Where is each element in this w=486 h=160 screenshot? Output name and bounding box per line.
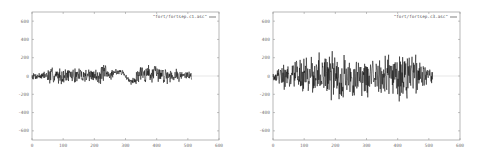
- x-tick-label: 100: [300, 143, 308, 148]
- y-tick-label: 600: [21, 19, 29, 24]
- x-tick-label: 200: [90, 143, 98, 148]
- y-tick-label: -600: [259, 128, 270, 133]
- x-tick-label: 600: [215, 143, 223, 148]
- y-tick-labels: 6004002000-200-400-600: [259, 19, 270, 134]
- x-tick-label: 400: [394, 143, 402, 148]
- plot-right-canvas: 6004002000-200-400-600 01002003004005006…: [241, 0, 484, 160]
- plot-left: 6004002000-200-400-600 01002003004005006…: [0, 0, 243, 160]
- legend-label: "fort/fortsep.c1.asc": [153, 14, 207, 19]
- y-tick-label: 200: [262, 55, 270, 60]
- plot-right: 6004002000-200-400-600 01002003004005006…: [241, 0, 484, 160]
- x-tick-label: 100: [59, 143, 67, 148]
- y-tick-label: 200: [21, 55, 29, 60]
- y-tick-label: 400: [21, 37, 29, 42]
- y-tick-label: -400: [259, 110, 270, 115]
- y-tick-label: 600: [262, 19, 270, 24]
- x-tick-label: 0: [31, 143, 34, 148]
- y-tick-labels: 6004002000-200-400-600: [18, 19, 29, 134]
- data-line: [273, 51, 433, 101]
- x-tick-labels: 0100200300400500600: [31, 143, 224, 148]
- x-tick-label: 200: [331, 143, 339, 148]
- legend-label: "fort/fortsep.c3.asc": [394, 14, 448, 19]
- y-tick-label: 0: [267, 74, 270, 79]
- x-tick-label: 300: [121, 143, 129, 148]
- y-tick-label: -400: [18, 110, 29, 115]
- x-tick-labels: 0100200300400500600: [272, 143, 465, 148]
- x-tick-label: 0: [272, 143, 275, 148]
- data-line: [32, 65, 192, 85]
- y-tick-label: -200: [259, 92, 270, 97]
- x-tick-label: 600: [456, 143, 464, 148]
- plot-left-canvas: 6004002000-200-400-600 01002003004005006…: [0, 0, 243, 160]
- y-tick-label: 400: [262, 37, 270, 42]
- x-tick-label: 500: [425, 143, 433, 148]
- y-tick-label: -600: [18, 128, 29, 133]
- y-tick-label: -200: [18, 92, 29, 97]
- y-tick-label: 0: [26, 74, 29, 79]
- x-tick-label: 500: [184, 143, 192, 148]
- x-tick-label: 400: [153, 143, 161, 148]
- x-tick-label: 300: [362, 143, 370, 148]
